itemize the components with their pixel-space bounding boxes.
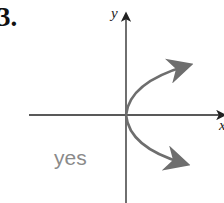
answer-text: yes — [54, 146, 87, 170]
graph — [0, 0, 224, 203]
